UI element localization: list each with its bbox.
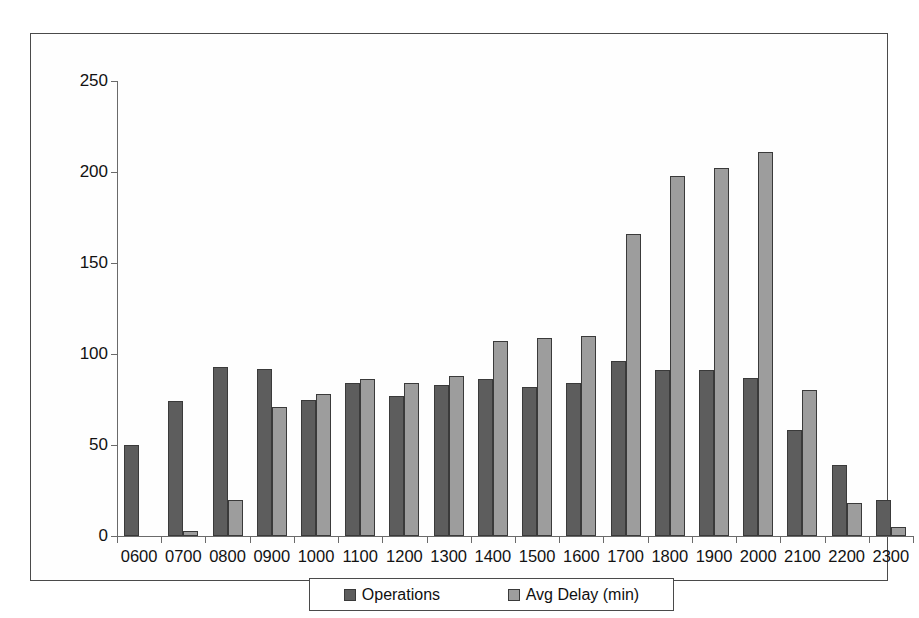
bar-1900-series-0 (699, 370, 714, 536)
x-axis-label-1000: 1000 (298, 547, 335, 566)
x-axis-label-1800: 1800 (651, 547, 688, 566)
plot-area: 050100150200250 060007000800090010001100… (117, 81, 913, 536)
legend-swatch-icon-avg-delay (508, 589, 520, 601)
bar-1900-series-1 (714, 168, 729, 536)
x-axis-tick (117, 536, 118, 543)
x-axis-label-2000: 2000 (740, 547, 777, 566)
y-axis-tick-label: 50 (89, 435, 108, 455)
x-axis-tick (294, 536, 295, 543)
bar-2200-series-1 (847, 503, 862, 536)
x-axis-label-1900: 1900 (696, 547, 733, 566)
bar-1300-series-0 (434, 385, 449, 536)
bar-2100-series-1 (802, 390, 817, 536)
bar-0700-series-0 (168, 401, 183, 536)
bar-1000-series-1 (316, 394, 331, 536)
bar-2300-series-1 (891, 527, 906, 536)
chart-frame: 050100150200250 060007000800090010001100… (30, 33, 888, 581)
bar-0800-series-0 (213, 367, 228, 536)
bar-1100-series-0 (345, 383, 360, 536)
chart-legend: Operations Avg Delay (min) (309, 578, 674, 611)
x-axis-label-1100: 1100 (342, 547, 377, 566)
x-axis-tick (205, 536, 206, 543)
legend-entry-operations: Operations (344, 586, 440, 604)
y-axis-tick-label: 250 (80, 71, 108, 91)
x-axis-label-0700: 0700 (165, 547, 202, 566)
bar-2100-series-0 (787, 430, 802, 536)
bar-1100-series-1 (360, 379, 375, 536)
bar-1400-series-0 (478, 379, 493, 536)
legend-label-operations: Operations (362, 586, 440, 604)
x-axis-tick (648, 536, 649, 543)
y-axis-tick-label: 150 (80, 253, 108, 273)
x-axis-tick (692, 536, 693, 543)
bar-2000-series-0 (743, 378, 758, 536)
x-axis-label-1200: 1200 (386, 547, 423, 566)
x-axis-tick (515, 536, 516, 543)
x-axis-label-2300: 2300 (873, 547, 910, 566)
x-axis-tick (427, 536, 428, 543)
bar-1700-series-0 (611, 361, 626, 536)
legend-swatch-icon-operations (344, 589, 356, 601)
bar-0800-series-1 (228, 500, 243, 536)
bar-0900-series-1 (272, 407, 287, 536)
x-axis-tick (382, 536, 383, 543)
legend-entry-avg-delay: Avg Delay (min) (508, 586, 640, 604)
x-axis-tick (559, 536, 560, 543)
y-axis-tick-label: 200 (80, 162, 108, 182)
x-axis-tick (736, 536, 737, 543)
figure-canvas: 050100150200250 060007000800090010001100… (0, 0, 919, 618)
x-axis-tick (825, 536, 826, 543)
y-axis-tick-label: 0 (99, 526, 108, 546)
bar-0700-series-1 (183, 531, 198, 536)
bar-1500-series-0 (522, 387, 537, 536)
bar-1600-series-1 (581, 336, 596, 536)
bar-1000-series-0 (301, 400, 316, 537)
bar-1700-series-1 (626, 234, 641, 536)
bar-2200-series-0 (832, 465, 847, 536)
x-axis-label-0600: 0600 (121, 547, 158, 566)
bar-1600-series-0 (566, 383, 581, 536)
x-axis-label-1500: 1500 (519, 547, 556, 566)
x-axis-label-1700: 1700 (607, 547, 644, 566)
bar-1200-series-1 (404, 383, 419, 536)
x-axis-label-1400: 1400 (475, 547, 512, 566)
x-axis-tick (913, 536, 914, 543)
bar-1800-series-1 (670, 176, 685, 536)
bar-1200-series-0 (389, 396, 404, 536)
x-axis-tick (471, 536, 472, 543)
x-axis-label-1600: 1600 (563, 547, 600, 566)
x-axis-tick (603, 536, 604, 543)
bar-0900-series-0 (257, 369, 272, 536)
bar-1400-series-1 (493, 341, 508, 536)
bar-1500-series-1 (537, 338, 552, 536)
x-axis-label-0800: 0800 (209, 547, 246, 566)
bar-2000-series-1 (758, 152, 773, 536)
x-axis-label-2200: 2200 (828, 547, 865, 566)
bar-1800-series-0 (655, 370, 670, 536)
bar-1300-series-1 (449, 376, 464, 536)
y-axis-tick-label: 100 (80, 344, 108, 364)
legend-label-avg-delay: Avg Delay (min) (526, 586, 640, 604)
x-axis-label-0900: 0900 (253, 547, 290, 566)
x-axis-tick (250, 536, 251, 543)
x-axis-tick (161, 536, 162, 543)
x-axis-tick (869, 536, 870, 543)
bar-2300-series-0 (876, 500, 891, 536)
bar-0600-series-0 (124, 445, 139, 536)
x-axis-tick (338, 536, 339, 543)
x-axis-label-1300: 1300 (430, 547, 467, 566)
x-axis-tick (780, 536, 781, 543)
bar-series-container (117, 81, 913, 536)
x-axis-label-2100: 2100 (784, 547, 821, 566)
